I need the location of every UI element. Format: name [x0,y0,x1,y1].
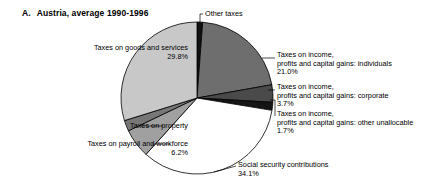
slice-label-goods-services-line1: Taxes on goods and services [38,44,188,53]
slice-label-unallocable-value: 1.7% [277,127,413,136]
slice-label-unallocable-line2: profits and capital gains: other unalloc… [277,119,413,128]
slice-label-individuals: Taxes on income, profits and capital gai… [277,51,392,77]
slice-label-payroll-line1: Taxes on payroll and workforce [28,140,188,149]
slice-label-social-security-value: 34.1% [238,170,328,179]
slice-label-other-taxes: Other taxes [205,10,243,19]
slice-label-other-taxes-text: Other taxes [205,9,243,18]
slice-label-social-security: Social security contributions 34.1% [238,161,328,178]
slice-label-goods-services-value: 29.8% [38,53,188,62]
slice-label-corporate-value: 3.7% [277,100,389,109]
slice-label-unallocable: Taxes on income, profits and capital gai… [277,110,413,136]
chart-figure: A.Austria, average 1990-1996 Other taxes… [0,0,445,189]
slice-label-goods-services: Taxes on goods and services 29.8% [38,44,188,61]
slice-label-corporate: Taxes on income, profits and capital gai… [277,83,389,109]
slice-label-property: Taxes on property [68,122,188,131]
slice-label-property-line1: Taxes on property [68,122,188,131]
slice-label-payroll: Taxes on payroll and workforce 6.2% [28,140,188,157]
slice-label-individuals-value: 21.0% [277,68,392,77]
slice-label-payroll-value: 6.2% [28,149,188,158]
